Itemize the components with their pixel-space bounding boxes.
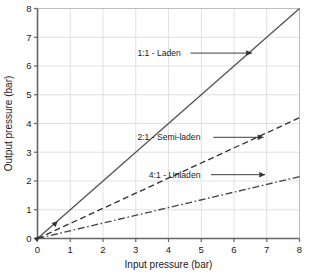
y-tick-label: 2 (26, 175, 31, 186)
pressure-ratio-chart: 0123456780123456781:1 - Laden2:1 - Semi-… (0, 0, 312, 280)
series-annotation-label: 1:1 - Laden (137, 48, 181, 58)
x-tick-label: 3 (133, 244, 138, 255)
x-tick-label: 7 (264, 244, 269, 255)
y-tick-label: 0 (26, 233, 31, 244)
y-tick-label: 6 (26, 60, 31, 71)
x-tick-label: 8 (297, 244, 302, 255)
y-tick-label: 3 (26, 147, 31, 158)
chart-canvas: 0123456780123456781:1 - Laden2:1 - Semi-… (0, 0, 312, 280)
x-axis-title: Input pressure (bar) (125, 259, 213, 270)
y-tick-label: 1 (26, 204, 31, 215)
x-tick-label: 6 (231, 244, 236, 255)
x-tick-label: 4 (166, 244, 171, 255)
y-axis-title: Output pressure (bar) (3, 76, 14, 172)
y-tick-label: 4 (26, 118, 31, 129)
series-annotation-label: 4:1 - Unladen (149, 170, 201, 180)
x-tick-label: 5 (199, 244, 204, 255)
x-tick-label: 2 (100, 244, 105, 255)
y-tick-label: 7 (26, 32, 31, 43)
x-tick-label: 1 (68, 244, 73, 255)
x-tick-label: 0 (35, 244, 40, 255)
y-tick-label: 8 (26, 3, 31, 14)
y-tick-label: 5 (26, 89, 31, 100)
series-annotation-label: 2:1 - Semi-laden (137, 132, 200, 142)
